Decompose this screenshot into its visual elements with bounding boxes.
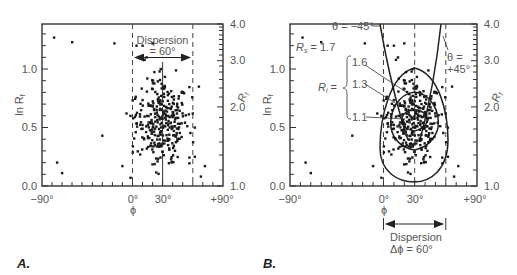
panel-b-label: B.: [263, 256, 276, 271]
panel-b-ri-brace: [343, 56, 351, 119]
panel-b-ri-label: Ri =: [318, 81, 337, 94]
panel-b-x-axis-title: ϕ: [381, 204, 387, 216]
panel-a-rtick-1: 1.0: [230, 180, 245, 192]
svg-text:ln Rf: ln Rf: [13, 94, 26, 116]
panel-b-right-ticks: [471, 24, 477, 186]
panel-b: θ = −45° θ = +45° Rs = 1.7 Ri = 1.6 1.3 …: [261, 18, 505, 271]
panel-a-dispersion-value: = 60°: [149, 45, 175, 57]
panel-a-xtick-neg90: −90°: [30, 193, 53, 205]
panel-a: Dispersion = 60° 1.0 0.5 0.0 4.0 3.0 2.0…: [13, 18, 251, 271]
panel-a-ytick-05: 0.5: [22, 121, 37, 133]
panel-b-rs-label: Rs = 1.7: [296, 41, 335, 54]
panel-b-ri-value-1.1: 1.1: [352, 111, 367, 123]
panel-b-xtick-pos90: +90°: [463, 193, 486, 205]
panel-b-xtick-neg90: −90°: [278, 193, 301, 205]
panel-b-left-ticks: [290, 34, 296, 186]
panel-b-theta-pos45-label-2: +45°: [447, 63, 470, 75]
panel-b-dispersion-value: Δϕ = 60°: [390, 243, 433, 255]
panel-b-xtick-30: 30°: [407, 193, 424, 205]
panel-b-ytick-0: 0.0: [270, 180, 285, 192]
panel-a-xtick-30: 30°: [155, 193, 172, 205]
panel-a-left-ticks: [42, 34, 48, 186]
panel-a-rtick-3: 3.0: [230, 54, 245, 66]
panel-b-ytick-1: 1.0: [270, 63, 285, 75]
panel-b-rtick-3: 3.0: [484, 54, 499, 66]
panel-b-y-axis-title: ln Rf: [261, 94, 274, 116]
panel-b-theta-pos45-leader: [443, 36, 448, 50]
panel-b-ytick-05: 0.5: [270, 121, 285, 133]
panel-a-ytick-1: 1.0: [22, 63, 37, 75]
panel-b-rtick-1: 1.0: [484, 180, 499, 192]
panel-b-ri-value-1.3: 1.3: [352, 78, 367, 90]
panel-a-rtick-4: 4.0: [230, 18, 245, 30]
panel-b-ri-value-1.6: 1.6: [352, 56, 367, 68]
panel-a-label: A.: [16, 256, 30, 271]
panel-a-ytick-0: 0.0: [22, 180, 37, 192]
figure-canvas: Dispersion = 60° 1.0 0.5 0.0 4.0 3.0 2.0…: [0, 0, 517, 275]
svg-text:ln Rf: ln Rf: [261, 94, 274, 116]
panel-a-x-axis-title: ϕ: [130, 204, 136, 216]
panel-b-rtick-4: 4.0: [484, 18, 499, 30]
panel-b-dispersion-label: Dispersion: [390, 231, 442, 243]
panel-b-theta-pos45-label-1: θ =: [447, 51, 463, 63]
panel-a-y-axis-title: ln Rf: [13, 94, 26, 116]
panel-b-theta-neg45-label: θ = −45°: [332, 20, 374, 32]
panel-a-right-ticks: [217, 24, 223, 186]
panel-a-xtick-pos90: +90°: [210, 193, 233, 205]
